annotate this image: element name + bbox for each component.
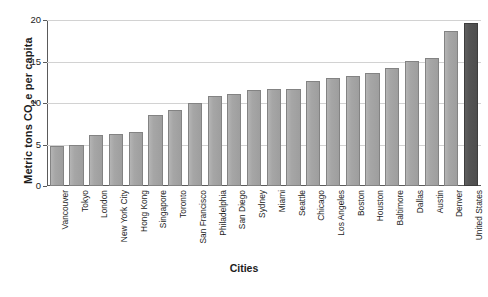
- bar-slot: [146, 20, 166, 186]
- bar[interactable]: [227, 94, 241, 186]
- x-tick-slot: Tokyo: [67, 186, 87, 256]
- bar-slot: [126, 20, 146, 186]
- bar-slot: [442, 20, 462, 186]
- bar-slot: [205, 20, 225, 186]
- bar-slot: [284, 20, 304, 186]
- bar-slot: [185, 20, 205, 186]
- bar[interactable]: [306, 81, 320, 186]
- x-tick-slot: Houston: [363, 186, 383, 256]
- x-tick-slot: Los Angeles: [323, 186, 343, 256]
- x-tick-slot: Sydney: [244, 186, 264, 256]
- bars-group: [47, 20, 481, 186]
- bar-slot: [106, 20, 126, 186]
- y-axis-tick-label: 15: [15, 56, 41, 67]
- bar-slot: [461, 20, 481, 186]
- bar-slot: [86, 20, 106, 186]
- y-axis-tick-label: 10: [15, 97, 41, 108]
- y-axis-tick-label: 0: [15, 180, 41, 191]
- y-axis-tick-label: 5: [15, 139, 41, 150]
- bar[interactable]: [326, 78, 340, 186]
- bar[interactable]: [385, 68, 399, 186]
- x-tick-slot: Toronto: [165, 186, 185, 256]
- bar[interactable]: [69, 145, 83, 186]
- bar-slot: [47, 20, 67, 186]
- x-tick-slot: Austin: [422, 186, 442, 256]
- bar-slot: [323, 20, 343, 186]
- x-axis-tick-labels: VancouverTokyoLondonNew York CityHong Ko…: [47, 186, 481, 256]
- bar[interactable]: [267, 89, 281, 186]
- x-tick-slot: Chicago: [303, 186, 323, 256]
- bar-chart-figure: Metric tons CO2e per capita 05101520 Van…: [0, 0, 488, 297]
- x-tick-slot: San Diego: [225, 186, 245, 256]
- bar-slot: [402, 20, 422, 186]
- bar[interactable]: [247, 90, 261, 186]
- bar[interactable]: [188, 103, 202, 186]
- bar[interactable]: [464, 23, 478, 186]
- x-tick-slot: London: [86, 186, 106, 256]
- x-tick-slot: Seattle: [284, 186, 304, 256]
- x-tick-slot: Singapore: [146, 186, 166, 256]
- x-tick-slot: Philadelphia: [205, 186, 225, 256]
- bar[interactable]: [168, 110, 182, 186]
- x-tick-slot: Dallas: [402, 186, 422, 256]
- x-tick-slot: United States: [461, 186, 481, 256]
- bar[interactable]: [148, 115, 162, 186]
- bar[interactable]: [129, 132, 143, 186]
- bar[interactable]: [405, 61, 419, 186]
- x-tick-slot: New York City: [106, 186, 126, 256]
- bar[interactable]: [425, 58, 439, 186]
- bar-slot: [303, 20, 323, 186]
- bar[interactable]: [208, 96, 222, 186]
- x-tick-slot: Vancouver: [47, 186, 67, 256]
- bar[interactable]: [444, 31, 458, 186]
- x-tick-slot: Baltimore: [382, 186, 402, 256]
- bar[interactable]: [286, 89, 300, 186]
- bar-slot: [225, 20, 245, 186]
- bar[interactable]: [109, 134, 123, 186]
- bar-slot: [363, 20, 383, 186]
- x-axis-title: Cities: [0, 262, 488, 274]
- bar-slot: [422, 20, 442, 186]
- y-axis-tick-label: 20: [15, 14, 41, 25]
- bar-slot: [244, 20, 264, 186]
- x-tick-slot: Miami: [264, 186, 284, 256]
- bar[interactable]: [346, 76, 360, 186]
- bar-slot: [382, 20, 402, 186]
- bar[interactable]: [365, 73, 379, 186]
- bar[interactable]: [50, 146, 64, 186]
- bar-slot: [165, 20, 185, 186]
- x-tick-slot: San Francisco: [185, 186, 205, 256]
- x-tick-slot: Denver: [442, 186, 462, 256]
- bar-slot: [264, 20, 284, 186]
- bar-slot: [67, 20, 87, 186]
- x-axis-tick-label: United States: [475, 190, 483, 240]
- x-tick-slot: Hong Kong: [126, 186, 146, 256]
- bar-slot: [343, 20, 363, 186]
- bar[interactable]: [89, 135, 103, 186]
- x-tick-slot: Boston: [343, 186, 363, 256]
